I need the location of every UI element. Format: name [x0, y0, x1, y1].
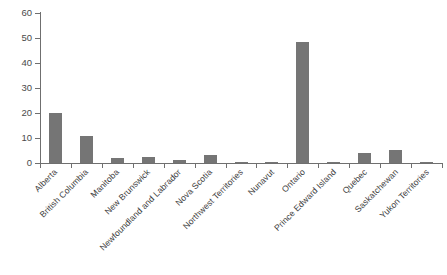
x-tick: [40, 163, 41, 168]
y-tick-label: 30: [4, 83, 32, 92]
x-axis-line: [40, 163, 442, 164]
bar: [265, 162, 278, 163]
bar: [204, 155, 217, 163]
x-tick: [226, 163, 227, 168]
x-category-label: Alberta: [33, 167, 60, 194]
x-category-label: Ontario: [279, 167, 306, 194]
x-tick: [71, 163, 72, 168]
x-tick: [380, 163, 381, 168]
x-tick: [102, 163, 103, 168]
bars-group: [40, 13, 442, 163]
bar: [420, 162, 433, 163]
x-tick: [164, 163, 165, 168]
y-tick-label: 40: [4, 58, 32, 67]
x-tick: [133, 163, 134, 168]
bar: [327, 162, 340, 163]
bar: [358, 153, 371, 164]
x-tick: [411, 163, 412, 168]
bar: [80, 136, 93, 163]
x-tick: [195, 163, 196, 168]
bar: [49, 113, 62, 164]
y-tick-label: 20: [4, 108, 32, 117]
x-tick: [442, 163, 443, 168]
y-tick-label: 60: [4, 8, 32, 17]
bar: [142, 157, 155, 163]
bar: [235, 162, 248, 163]
x-tick: [349, 163, 350, 168]
y-tick-label: 0: [4, 158, 32, 167]
y-tick-label: 50: [4, 33, 32, 42]
x-tick: [318, 163, 319, 168]
x-tick: [287, 163, 288, 168]
y-tick-label: 10: [4, 133, 32, 142]
bar-chart: 0102030405060 AlbertaBritish ColumbiaMan…: [0, 0, 447, 275]
bar: [296, 42, 309, 164]
bar: [173, 160, 186, 163]
x-category-label: Quebec: [340, 167, 369, 196]
x-category-label: Northwest Territories: [181, 167, 245, 231]
x-category-label: Prince Edward Island: [272, 167, 338, 233]
x-tick: [256, 163, 257, 168]
bar: [389, 150, 402, 163]
x-category-label: Nunavut: [246, 167, 276, 197]
bar: [111, 158, 124, 163]
